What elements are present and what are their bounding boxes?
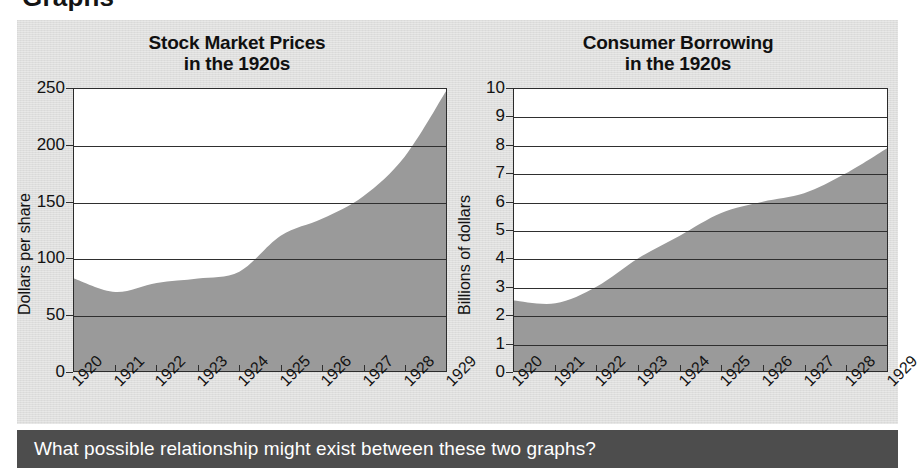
caption-bar: What possible relationship might exist b… xyxy=(17,430,898,468)
chart-title-right-line2: in the 1920s xyxy=(458,53,898,74)
y-tick-label-250: 250 xyxy=(27,79,65,96)
area-series-right xyxy=(514,89,887,371)
y-tick-mark-250 xyxy=(66,88,73,89)
y-tick-label-1: 1 xyxy=(467,335,505,352)
y-tick-mark-50 xyxy=(66,315,73,316)
y-tick-mark-6 xyxy=(506,202,513,203)
gridline-y-1 xyxy=(514,345,887,346)
gridline-y-200 xyxy=(74,146,446,147)
gridline-y-4 xyxy=(514,259,887,260)
chart-title-left-line1: Stock Market Prices xyxy=(149,32,326,53)
cut-off-heading: Graphs xyxy=(22,0,282,13)
plot-area-right xyxy=(513,88,888,372)
gridline-y-3 xyxy=(514,288,887,289)
gridline-y-7 xyxy=(514,174,887,175)
chart-stock-market-prices: Stock Market Prices in the 1920s 0501001… xyxy=(17,20,457,424)
gridline-y-50 xyxy=(74,316,446,317)
gridline-y-2 xyxy=(514,316,887,317)
y-tick-mark-3 xyxy=(506,287,513,288)
chart-consumer-borrowing: Consumer Borrowing in the 1920s 01234567… xyxy=(458,20,898,424)
gridline-y-5 xyxy=(514,231,887,232)
gridline-y-100 xyxy=(74,259,446,260)
y-tick-label-0: 0 xyxy=(27,363,65,380)
plot-area-left xyxy=(73,88,447,372)
y-tick-label-200: 200 xyxy=(27,136,65,153)
chart-title-right: Consumer Borrowing in the 1920s xyxy=(458,32,898,74)
plot-box-right xyxy=(513,88,888,372)
y-tick-label-0: 0 xyxy=(467,363,505,380)
y-tick-mark-5 xyxy=(506,230,513,231)
caption-text: What possible relationship might exist b… xyxy=(17,438,596,460)
y-tick-mark-150 xyxy=(66,202,73,203)
gridline-y-8 xyxy=(514,146,887,147)
y-tick-mark-4 xyxy=(506,258,513,259)
y-tick-label-10: 10 xyxy=(467,79,505,96)
x-tick-label-1929: 1929 xyxy=(884,353,920,389)
y-tick-mark-8 xyxy=(506,145,513,146)
y-tick-mark-10 xyxy=(506,88,513,89)
chart-title-left-line2: in the 1920s xyxy=(17,53,457,74)
y-tick-label-7: 7 xyxy=(467,164,505,181)
gridline-y-150 xyxy=(74,203,446,204)
gridline-y-6 xyxy=(514,203,887,204)
chart-title-left: Stock Market Prices in the 1920s xyxy=(17,32,457,74)
y-tick-mark-100 xyxy=(66,258,73,259)
y-tick-mark-2 xyxy=(506,315,513,316)
gridline-y-9 xyxy=(514,117,887,118)
y-axis-label: Billions of dollars xyxy=(457,195,473,315)
plot-box-left xyxy=(73,88,447,372)
y-tick-label-9: 9 xyxy=(467,107,505,124)
cut-off-heading-text: Graphs xyxy=(22,0,282,10)
area-series-left xyxy=(74,89,446,371)
chart-title-right-line1: Consumer Borrowing xyxy=(583,32,774,53)
y-tick-label-8: 8 xyxy=(467,136,505,153)
y-tick-mark-200 xyxy=(66,145,73,146)
y-tick-mark-7 xyxy=(506,173,513,174)
y-axis-label: Dollars per share xyxy=(17,193,33,315)
area-fill xyxy=(74,91,446,371)
y-tick-mark-1 xyxy=(506,344,513,345)
y-tick-mark-9 xyxy=(506,116,513,117)
